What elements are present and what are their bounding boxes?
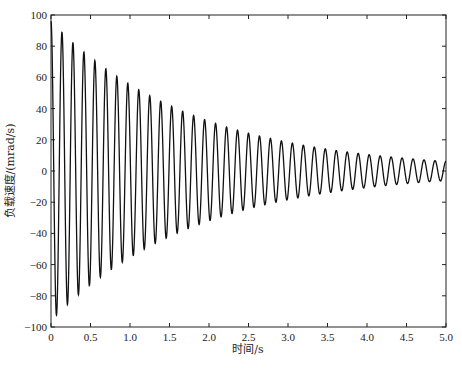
y-tick-label: −40	[30, 227, 48, 239]
y-axis-label: 负载速度/(mrad/s)	[3, 124, 17, 219]
x-tick-label: 4.5	[400, 331, 414, 343]
x-tick-label: 4.0	[360, 331, 374, 343]
y-tick-label: 80	[36, 40, 48, 52]
y-tick-label: 60	[36, 71, 48, 83]
line-chart: 00.51.01.52.02.53.03.54.04.55.0 10080604…	[0, 0, 462, 371]
y-tick-label: −80	[30, 290, 48, 302]
x-tick-label: 0	[48, 331, 54, 343]
y-tick-label: −20	[30, 196, 48, 208]
x-tick-label: 2.5	[242, 331, 256, 343]
x-tick-label: 5.0	[439, 331, 453, 343]
plot-area	[51, 15, 446, 327]
x-tick-label: 3.0	[281, 331, 295, 343]
y-tick-label: −100	[24, 321, 47, 333]
x-axis-label: 时间/s	[232, 343, 264, 356]
x-tick-label: 2.0	[202, 331, 216, 343]
y-tick-label: −60	[30, 259, 48, 271]
y-tick-label: 100	[31, 9, 48, 21]
x-tick-label: 1.0	[123, 331, 137, 343]
x-tick-label: 1.5	[163, 331, 177, 343]
series-line	[51, 21, 446, 315]
x-tick-label: 3.5	[321, 331, 335, 343]
x-tick-label: 0.5	[84, 331, 98, 343]
y-tick-label: 20	[36, 134, 48, 146]
y-tick-label: 40	[36, 103, 48, 115]
y-tick-label: 0	[42, 165, 48, 177]
